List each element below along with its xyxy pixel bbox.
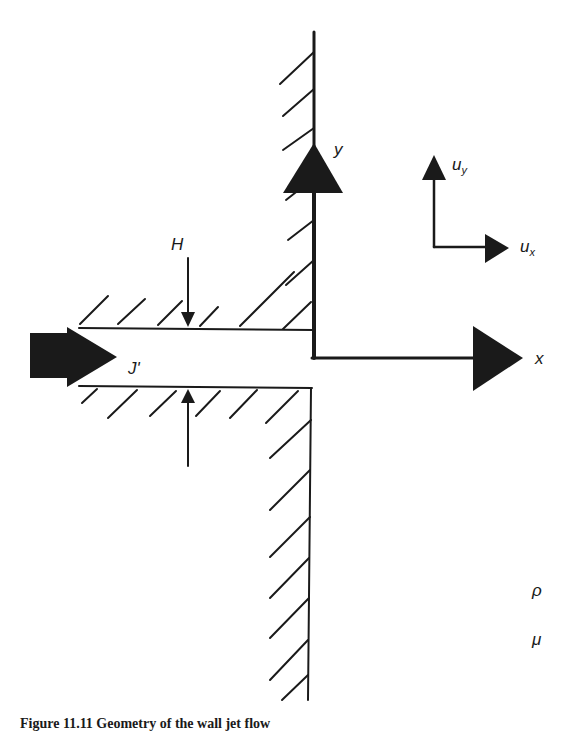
density-label: ρ (531, 581, 542, 600)
jet-inlet-arrow-icon (30, 327, 117, 387)
h-arrowhead-top-icon (181, 312, 195, 327)
ux-label: ux (520, 237, 535, 258)
channel-lower-wall (79, 386, 312, 388)
channel-upper-wall (79, 328, 314, 330)
uy-label: uy (452, 155, 468, 176)
figure-caption: Figure 11.11 Geometry of the wall jet fl… (20, 716, 270, 732)
x-axis-label: x (534, 349, 544, 368)
wall-lower (308, 388, 311, 700)
uy-arrowhead-icon (422, 155, 446, 180)
h-arrowhead-bottom-icon (181, 389, 195, 403)
wall-jet-diagram: y x uy ux H J' ρ μ (0, 0, 573, 735)
viscosity-label: μ (531, 630, 542, 649)
x-axis-arrowhead-icon (473, 326, 523, 391)
h-label: H (171, 235, 184, 254)
lower-wall-hatching (270, 420, 311, 700)
y-axis-label: y (333, 140, 344, 159)
jet-momentum-label: J' (127, 359, 141, 378)
ux-arrowhead-icon (485, 234, 509, 263)
channel-upper-hatching (80, 272, 311, 329)
